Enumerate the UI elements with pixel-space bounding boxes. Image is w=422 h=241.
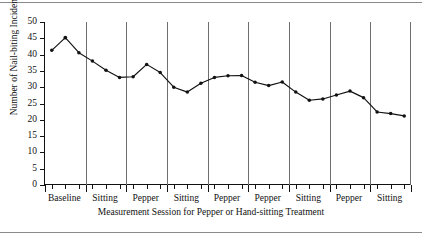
y-axis-tick: [40, 136, 45, 137]
x-axis-tick: [201, 185, 202, 189]
x-axis-phase-tick: [126, 185, 127, 192]
y-axis-tick-label: 45: [15, 33, 37, 43]
data-point: [267, 84, 271, 88]
data-point: [50, 49, 54, 53]
y-axis-tick: [40, 22, 45, 23]
data-point: [375, 110, 379, 114]
data-point: [77, 51, 81, 55]
x-axis-tick: [391, 185, 392, 189]
phase-label: Baseline: [48, 194, 81, 204]
series-svg: [45, 22, 411, 185]
y-axis-tick: [40, 38, 45, 39]
x-axis-phase-tick: [86, 185, 87, 192]
x-axis-phase-tick: [370, 185, 371, 192]
data-point: [199, 82, 203, 86]
y-axis-tick-label: 10: [15, 147, 37, 157]
top-rule: [0, 2, 422, 3]
data-point: [145, 63, 149, 67]
data-point: [63, 36, 67, 40]
plot-area: [45, 22, 410, 184]
data-point: [280, 80, 284, 84]
x-axis-tick: [79, 185, 80, 189]
data-point: [158, 71, 162, 75]
y-axis-tick-label: 15: [15, 131, 37, 141]
data-point: [118, 76, 122, 80]
phase-label: Pepper: [132, 194, 158, 204]
x-axis-tick: [160, 185, 161, 189]
y-axis-tick: [40, 152, 45, 153]
y-axis-tick-label: 30: [15, 82, 37, 92]
data-point: [131, 75, 135, 79]
plot-frame: [44, 22, 410, 185]
y-axis-tick: [40, 87, 45, 88]
y-axis-tick: [40, 71, 45, 72]
data-point: [213, 76, 217, 80]
phase-label: Sitting: [92, 194, 117, 204]
x-axis-tick: [309, 185, 310, 189]
y-axis-tick-label: 35: [15, 66, 37, 76]
data-point: [226, 74, 230, 78]
y-axis-tick-label: 5: [15, 164, 37, 174]
x-axis-tick: [242, 185, 243, 189]
x-axis-phase-tick: [330, 185, 331, 192]
x-axis-tick: [133, 185, 134, 189]
x-axis-phase-tick: [411, 185, 412, 192]
data-point: [402, 114, 406, 118]
data-point: [294, 90, 298, 94]
y-axis-tick-label: 20: [15, 115, 37, 125]
x-axis-tick: [323, 185, 324, 189]
x-axis-phase-tick: [45, 185, 46, 192]
x-axis-tick: [106, 185, 107, 189]
x-axis-tick: [296, 185, 297, 189]
phase-label: Sitting: [174, 194, 199, 204]
x-axis-tick: [52, 185, 53, 189]
x-axis-tick: [255, 185, 256, 189]
y-axis-tick: [40, 120, 45, 121]
y-axis-tick-label: 40: [15, 50, 37, 60]
x-axis-tick: [228, 185, 229, 189]
data-point: [253, 81, 256, 85]
x-axis-tick: [350, 185, 351, 189]
data-point: [186, 90, 190, 94]
data-point: [308, 98, 312, 102]
x-axis-tick: [92, 185, 93, 189]
x-axis-tick: [174, 185, 175, 189]
x-axis-tick: [377, 185, 378, 189]
y-axis-tick-label: 0: [15, 180, 37, 190]
phase-label: Pepper: [214, 194, 240, 204]
figure-container: Number of Nail-biting Incidents 05101520…: [0, 0, 422, 241]
phase-label: Pepper: [336, 194, 362, 204]
x-axis-tick: [364, 185, 365, 189]
y-axis-tick: [40, 55, 45, 56]
phase-label: Pepper: [254, 194, 280, 204]
x-axis-phase-tick: [167, 185, 168, 192]
x-axis-tick: [147, 185, 148, 189]
data-point: [172, 85, 176, 89]
x-axis-title: Measurement Session for Pepper or Hand-s…: [0, 207, 422, 217]
phase-label: Sitting: [377, 194, 402, 204]
data-point: [362, 96, 366, 100]
x-axis-tick: [120, 185, 121, 189]
x-axis-phase-tick: [289, 185, 290, 192]
data-point: [335, 93, 339, 97]
data-point: [104, 69, 108, 73]
x-axis-tick: [282, 185, 283, 189]
data-point: [348, 89, 352, 93]
x-axis-phase-tick: [208, 185, 209, 192]
x-axis-tick: [187, 185, 188, 189]
data-point: [91, 59, 95, 63]
y-axis-tick-label: 50: [15, 17, 37, 27]
series-markers: [50, 36, 406, 118]
x-axis-phase-tick: [248, 185, 249, 192]
x-axis-tick: [65, 185, 66, 189]
y-axis-tick: [40, 104, 45, 105]
bottom-rule: [0, 232, 422, 233]
x-axis-tick: [336, 185, 337, 189]
y-axis-tick-label: 25: [15, 99, 37, 109]
data-point: [389, 112, 393, 116]
data-point: [240, 74, 244, 78]
x-axis-tick: [269, 185, 270, 189]
x-axis-tick: [404, 185, 405, 189]
x-axis-tick: [214, 185, 215, 189]
y-axis-tick: [40, 169, 45, 170]
